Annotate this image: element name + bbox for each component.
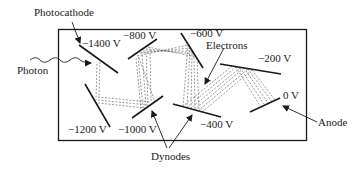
voltage-dynode-5: −400 V: [200, 118, 233, 130]
anode-pointer-arrow: [283, 106, 317, 122]
dynode-5: [173, 104, 221, 117]
voltage-dynode-2: −1000 V: [118, 123, 157, 135]
voltage-dynode-1: −1200 V: [68, 123, 107, 135]
photocathode-plate: [79, 45, 118, 73]
electrons-label: Electrons: [206, 39, 248, 51]
photon-wave-icon: [30, 58, 91, 63]
dynodes-pointer-arrow-right: [169, 115, 192, 148]
pmt-diagram: Photocathode Photon Electrons Dynodes An…: [0, 0, 361, 171]
electron-paths: [96, 45, 275, 112]
voltage-anode: 0 V: [283, 89, 299, 101]
photon-label: Photon: [17, 64, 49, 76]
photocathode-pointer-arrow: [72, 22, 80, 43]
dynodes-label: Dynodes: [151, 150, 190, 162]
electrons-pointer-arrow: [205, 48, 224, 84]
anode-plate: [250, 98, 280, 112]
voltage-dynode-4: −600 V: [190, 27, 223, 39]
dynode-1: [85, 84, 110, 127]
voltage-dynode-6: −200 V: [258, 52, 291, 64]
photocathode-label: Photocathode: [34, 6, 94, 18]
anode-label: Anode: [318, 116, 347, 128]
voltage-cathode: −1400 V: [82, 37, 121, 49]
voltage-dynode-3: −800 V: [123, 29, 156, 41]
